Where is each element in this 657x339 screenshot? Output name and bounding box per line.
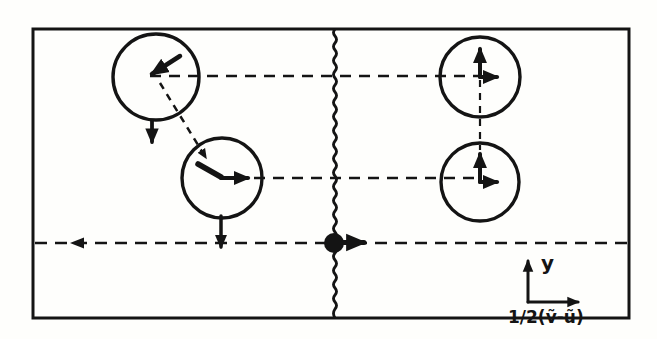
centerline-left-arrowhead	[70, 238, 84, 249]
velocity-arrow-top-left-circle	[152, 56, 180, 74]
velocity-tail-mid-left-circle	[198, 164, 221, 177]
x-axis-label: 1/2(ṽ-ũ)	[508, 307, 584, 327]
figure-canvas: y 1/2(ṽ-ũ)	[0, 0, 657, 339]
diagram-svg: y 1/2(ṽ-ũ)	[0, 0, 657, 339]
figure-frame	[33, 29, 629, 318]
interface-wavy-line	[334, 29, 337, 318]
y-axis-label: y	[541, 251, 554, 275]
